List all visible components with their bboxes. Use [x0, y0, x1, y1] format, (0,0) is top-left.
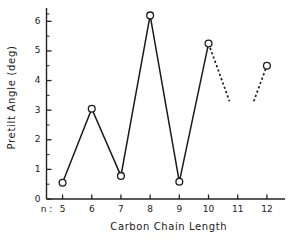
- plot-area: 0123456 56789101112 n :: [35, 8, 285, 214]
- x-axis-n-prefix-label: n :: [41, 204, 53, 214]
- data-point-marker: [59, 179, 66, 186]
- y-tick-label: 2: [35, 134, 41, 144]
- x-tick-label: 8: [147, 204, 153, 214]
- chart-canvas: 0123456 56789101112 n : Carbon Chain Len…: [0, 0, 293, 240]
- x-tick-label: 5: [60, 204, 66, 214]
- y-axis-tick-labels: 0123456: [35, 16, 41, 204]
- y-tick-label: 1: [35, 164, 41, 174]
- data-line-dashed: [254, 66, 267, 102]
- data-line-dashed-group: [209, 44, 267, 102]
- data-point-marker: [176, 178, 183, 185]
- x-tick-label: 6: [89, 204, 95, 214]
- y-tick-label: 5: [35, 45, 41, 55]
- x-axis-title: Carbon Chain Length: [110, 221, 227, 232]
- data-point-marker: [118, 173, 125, 180]
- x-tick-label: 7: [118, 204, 124, 214]
- x-tick-label: 11: [232, 204, 243, 214]
- x-tick-label: 12: [261, 204, 272, 214]
- data-line-dashed: [209, 44, 230, 102]
- data-point-marker: [147, 12, 154, 19]
- x-tick-label: 9: [176, 204, 182, 214]
- y-tick-label: 0: [35, 194, 41, 204]
- x-axis-tick-labels: 56789101112: [60, 204, 273, 214]
- y-tick-label: 4: [35, 75, 41, 85]
- data-point-marker: [88, 105, 95, 112]
- y-tick-label: 6: [35, 16, 41, 26]
- pretilt-angle-chart: 0123456 56789101112 n : Carbon Chain Len…: [0, 0, 293, 240]
- y-tick-label: 3: [35, 105, 41, 115]
- x-tick-label: 10: [203, 204, 215, 214]
- data-point-marker: [205, 40, 212, 47]
- data-line-solid: [63, 15, 209, 182]
- data-point-marker: [264, 62, 271, 69]
- y-axis-title: Pretilt Angle (deg): [6, 45, 17, 149]
- y-axis-ticks: [47, 14, 52, 199]
